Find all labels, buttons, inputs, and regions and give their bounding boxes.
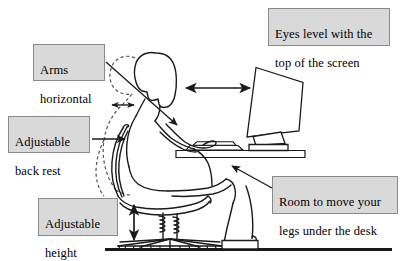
callout-arms-horizontal: Arms horizontal bbox=[33, 44, 105, 81]
callout-adjustable-height-line2: height bbox=[45, 246, 112, 261]
legroom-leader bbox=[232, 166, 272, 188]
callout-adjustable-back-rest: Adjustable back rest bbox=[8, 116, 90, 153]
arms-horizontal-leader bbox=[106, 62, 177, 125]
callout-eyes-level-line1: Eyes level with the bbox=[275, 27, 384, 42]
callout-arms-horizontal-line2: horizontal bbox=[40, 92, 99, 107]
footrest bbox=[222, 241, 258, 250]
callout-room-to-move-line2: legs under the desk bbox=[279, 224, 392, 239]
callout-adjustable-back-rest-line2: back rest bbox=[15, 164, 84, 179]
callout-adjustable-back-rest-line1: Adjustable bbox=[15, 135, 84, 150]
callout-room-to-move-line1: Room to move your bbox=[279, 195, 392, 210]
callout-adjustable-height: Adjustable height bbox=[38, 198, 118, 236]
callout-eyes-level-line2: top of the screen bbox=[275, 56, 384, 71]
callout-room-to-move: Room to move your legs under the desk bbox=[272, 176, 398, 214]
ergonomics-diagram: Arms horizontal Adjustable back rest Adj… bbox=[0, 0, 419, 261]
callout-arms-horizontal-line1: Arms bbox=[40, 63, 99, 78]
callout-eyes-level: Eyes level with the top of the screen bbox=[268, 8, 390, 46]
callout-adjustable-height-line1: Adjustable bbox=[45, 217, 112, 232]
